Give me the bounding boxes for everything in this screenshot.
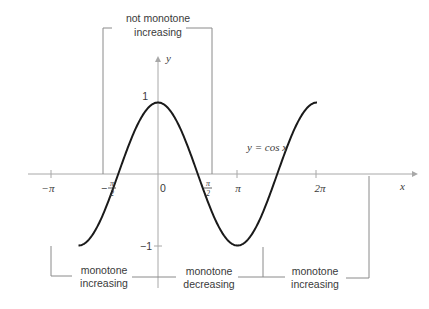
tick-label-zero: 0 — [160, 182, 166, 194]
top-bracket-left — [103, 28, 112, 174]
bottom-label-1-line2: increasing — [80, 277, 128, 289]
tick-label-neg-pi-over-2: − π 2 — [101, 179, 116, 198]
bottom-label-1-line1: monotone — [81, 264, 128, 276]
svg-text:π: π — [206, 179, 211, 188]
y-axis-label: y — [165, 52, 171, 64]
cosine-graph: not monotone increasing monotone increas… — [0, 0, 429, 309]
tick-label-neg-pi: −π — [42, 182, 55, 194]
x-axis-arrow-icon — [412, 171, 418, 177]
top-bracket-label-line1: not monotone — [126, 12, 190, 24]
top-bracket-label-line2: increasing — [134, 26, 182, 38]
bottom-label-3-line1: monotone — [292, 265, 339, 277]
tick-label-y-1: 1 — [142, 90, 148, 102]
x-axis-label: x — [399, 180, 405, 192]
bottom-label-2-line1: monotone — [186, 265, 233, 277]
tick-label-pi: π — [235, 182, 241, 194]
bottom-label-2-line2: decreasing — [183, 278, 235, 290]
tick-label-y-neg1: −1 — [140, 240, 152, 252]
y-axis-arrow-icon — [155, 56, 161, 62]
svg-text:−: − — [101, 182, 107, 194]
bottom-bracket-3-right — [346, 176, 369, 278]
bottom-label-3-line2: increasing — [291, 278, 339, 290]
svg-text:2: 2 — [110, 189, 114, 198]
svg-text:2: 2 — [206, 189, 210, 198]
function-label: y = cos x — [246, 141, 287, 153]
tick-label-2pi: 2π — [314, 182, 326, 194]
bottom-bracket-1-left — [51, 246, 72, 276]
tick-label-pi-over-2: π 2 — [204, 179, 212, 198]
